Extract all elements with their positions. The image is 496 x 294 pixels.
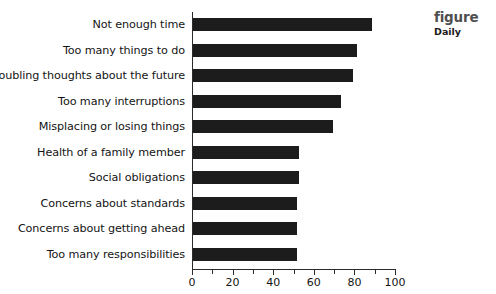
x-axis-tick <box>253 270 254 274</box>
bar <box>193 120 333 133</box>
x-axis-tick <box>395 270 396 275</box>
x-axis-tick <box>212 270 213 274</box>
bar-row: Misplacing or losing things <box>0 114 496 139</box>
category-label: Not enough time <box>92 12 193 37</box>
category-label: Health of a family member <box>37 140 193 165</box>
bar-row: Health of a family member <box>0 140 496 165</box>
bar <box>193 171 299 184</box>
figure-caption: figure Daily <box>434 10 496 38</box>
category-label: Too many things to do <box>63 38 193 63</box>
category-label: Social obligations <box>89 165 193 190</box>
x-axis-tick <box>233 270 234 275</box>
category-label: Concerns about standards <box>40 191 193 216</box>
x-axis-tick-label: 60 <box>307 276 321 289</box>
bar <box>193 95 341 108</box>
x-axis-tick-label: 100 <box>385 276 406 289</box>
y-axis-line <box>192 12 193 270</box>
bar <box>193 44 357 57</box>
x-axis-tick <box>192 270 193 275</box>
x-axis-tick <box>294 270 295 274</box>
x-axis-tick-label: 80 <box>347 276 361 289</box>
bar <box>193 18 372 31</box>
bar <box>193 69 353 82</box>
figure-caption-subtitle: Daily <box>434 26 496 38</box>
bar <box>193 197 297 210</box>
x-axis-tick <box>354 270 355 275</box>
bar-row: Social obligations <box>0 165 496 190</box>
bar-row: Not enough time <box>0 12 496 37</box>
x-axis-tick-label: 40 <box>266 276 280 289</box>
figure-caption-title: figure <box>434 10 496 25</box>
chart-figure: Not enough timeToo many things to doTrou… <box>0 0 496 294</box>
x-axis-tick <box>273 270 274 275</box>
bar <box>193 222 297 235</box>
x-axis-tick <box>314 270 315 275</box>
category-label: Misplacing or losing things <box>39 114 193 139</box>
bar <box>193 146 299 159</box>
category-label: Too many interruptions <box>58 89 193 114</box>
category-label: Concerns about getting ahead <box>18 216 193 241</box>
bar <box>193 248 297 261</box>
x-axis-tick <box>375 270 376 274</box>
category-label: Troubling thoughts about the future <box>0 63 193 88</box>
bar-chart-plot-area: Not enough timeToo many things to doTrou… <box>0 0 496 294</box>
bar-row: Concerns about standards <box>0 191 496 216</box>
bar-row: Too many things to do <box>0 38 496 63</box>
x-axis-tick-label: 0 <box>189 276 196 289</box>
bar-row: Too many interruptions <box>0 89 496 114</box>
bar-row: Troubling thoughts about the future <box>0 63 496 88</box>
bar-row: Too many responsibilities <box>0 242 496 267</box>
category-label: Too many responsibilities <box>47 242 193 267</box>
x-axis-tick <box>334 270 335 274</box>
bar-row: Concerns about getting ahead <box>0 216 496 241</box>
x-axis-tick-label: 20 <box>226 276 240 289</box>
